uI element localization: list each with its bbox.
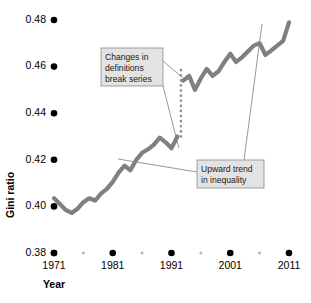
y-axis-tick-label: 0.40 [26,199,47,211]
x-axis-minor-tick-dot [258,252,261,255]
x-axis-tick-dot [286,250,293,257]
y-axis-tick-label: 0.48 [26,13,47,25]
x-axis-minor-tick-dot [199,252,202,255]
chart-background [0,0,311,303]
y-axis-tick-label: 0.46 [26,59,47,71]
x-axis-tick-dot [109,250,116,257]
annotation-trend-note: Upward trend in inequality [197,160,264,188]
y-axis-tick-label: 0.42 [26,153,47,165]
y-axis-title: Gini ratio [4,172,16,218]
annotation-trend-note-line-2: in inequality [201,175,247,185]
y-axis-tick-dot [51,110,58,117]
annotation-trend-note-line-1: Upward trend [201,164,253,174]
x-axis-tick-dot [227,250,234,257]
x-axis-tick-label: 1971 [42,259,66,271]
x-axis-tick-dot [51,250,58,257]
x-axis-tick-label: 2011 [278,259,301,271]
x-axis-title: Year [43,278,65,290]
x-axis-tick-label: 1981 [101,259,125,271]
x-axis-tick-label: 1991 [160,259,184,271]
y-axis-tick-label: 0.38 [26,246,47,258]
y-axis-tick-dot [51,63,58,70]
x-axis-minor-tick-dot [82,252,85,255]
x-axis-minor-tick-dot [141,252,144,255]
x-axis-tick-label: 2001 [219,259,243,271]
chart-canvas: 0.480.460.440.420.400.38 197119811991200… [0,0,311,303]
gini-ratio-chart: 0.480.460.440.420.400.38 197119811991200… [0,0,311,303]
annotation-break-note-line-1: Changes in [105,52,149,62]
annotation-break-note: Changes in definitions break series [101,48,163,86]
y-axis-tick-dot [51,157,58,164]
annotation-break-note-line-3: break series [105,74,152,84]
annotation-break-note-line-2: definitions [105,63,144,73]
y-axis-tick-label: 0.44 [26,106,47,118]
x-axis-tick-dot [168,250,175,257]
y-axis-tick-dot [51,203,58,210]
y-axis-tick-dot [51,17,58,24]
